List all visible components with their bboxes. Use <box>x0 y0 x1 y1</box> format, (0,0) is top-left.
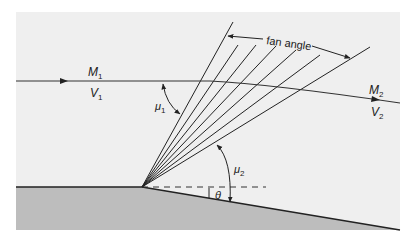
expansion-fan-diagram: fan angle M1 V1 μ1 M2 V2 μ2 θ <box>0 0 413 244</box>
label-theta: θ <box>215 189 221 201</box>
